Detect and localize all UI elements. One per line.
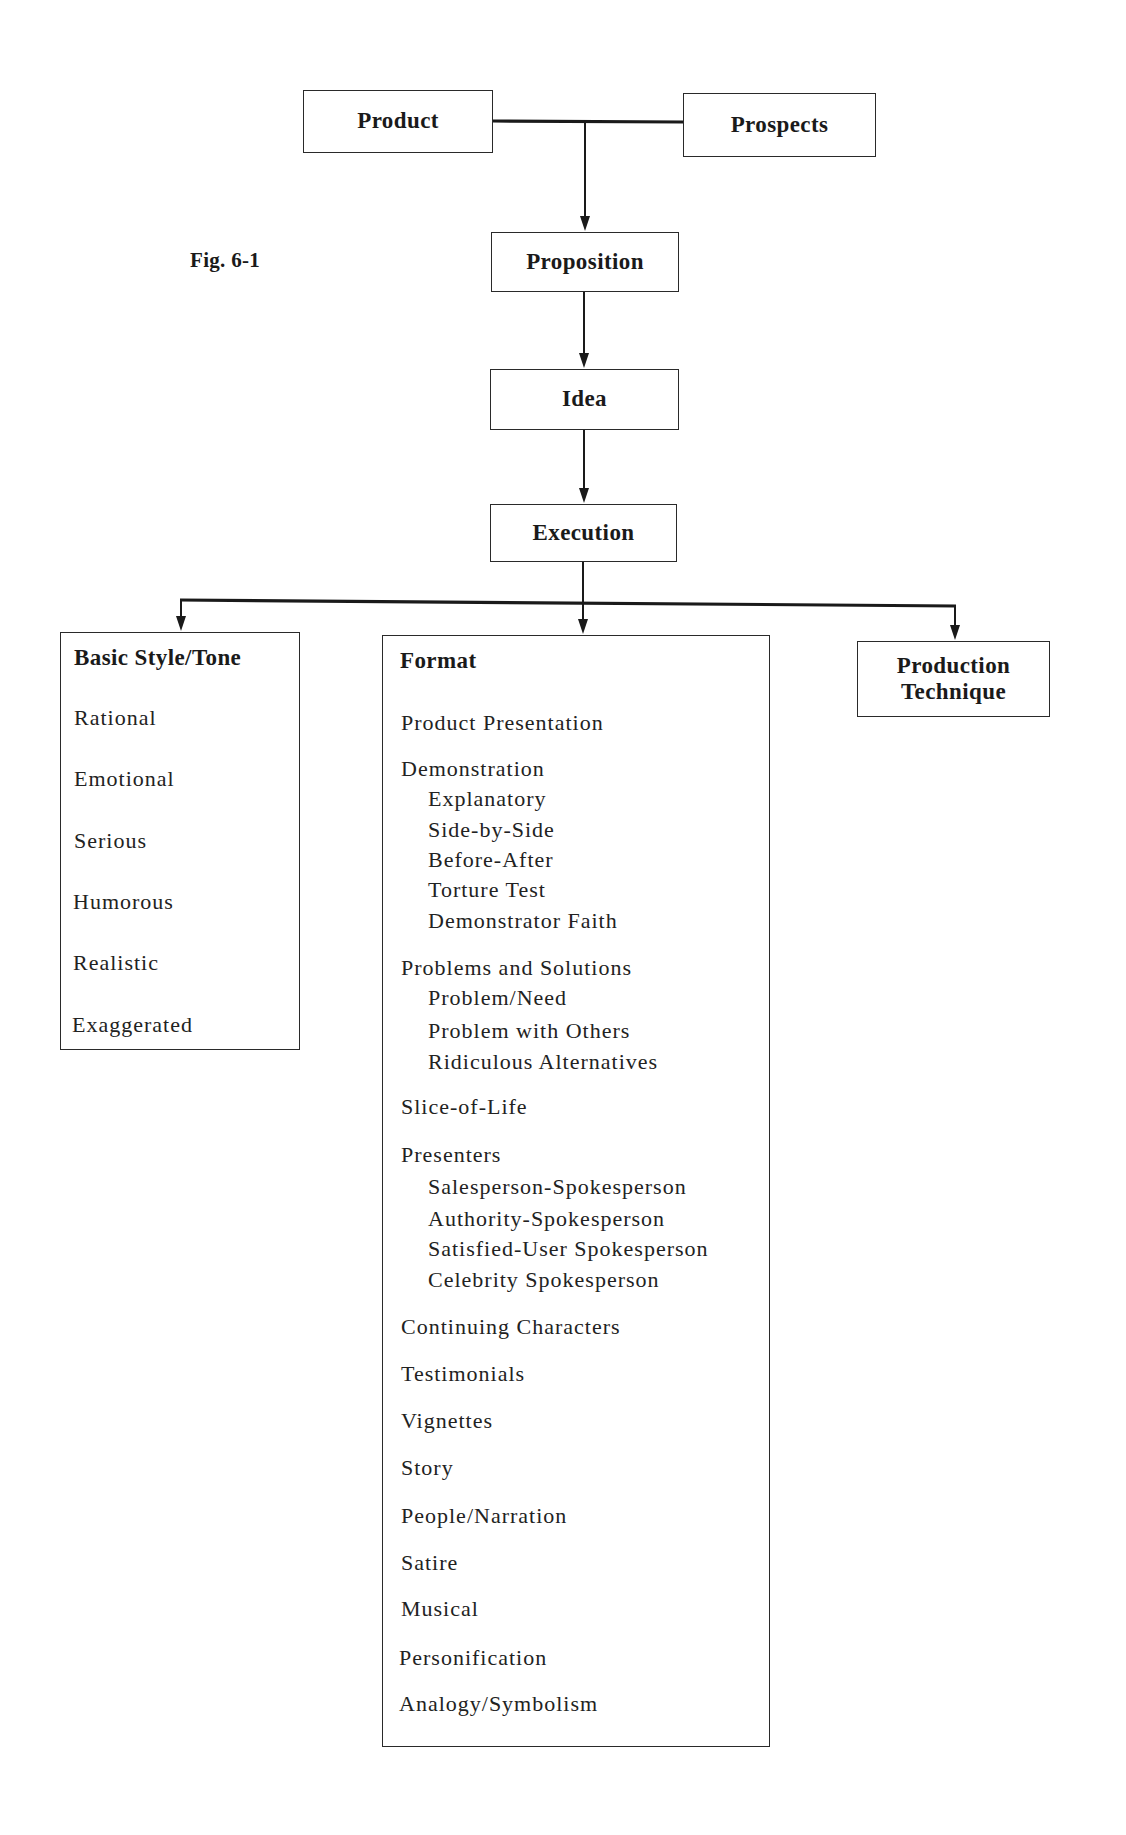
format-item: People/Narration bbox=[401, 1503, 567, 1529]
format-subitem: Satisfied-User Spokesperson bbox=[428, 1236, 709, 1262]
style-item: Rational bbox=[74, 705, 157, 731]
style-item: Exaggerated bbox=[72, 1012, 193, 1038]
production-technique-label-line2: Technique bbox=[901, 679, 1006, 705]
format-subitem: Torture Test bbox=[428, 877, 546, 903]
execution-label: Execution bbox=[533, 520, 635, 546]
format-subitem: Problem with Others bbox=[428, 1018, 630, 1044]
production-technique-node: Production Technique bbox=[857, 641, 1050, 717]
execution-node: Execution bbox=[490, 504, 677, 562]
idea-label: Idea bbox=[562, 386, 607, 412]
production-technique-label-line1: Production bbox=[897, 653, 1010, 679]
format-subitem: Salesperson-Spokesperson bbox=[428, 1174, 687, 1200]
proposition-node: Proposition bbox=[491, 232, 679, 292]
style-item: Emotional bbox=[74, 766, 175, 792]
format-item: Musical bbox=[401, 1596, 479, 1622]
format-subitem: Side-by-Side bbox=[428, 817, 555, 843]
format-item: Demonstration bbox=[401, 756, 545, 782]
style-item: Realistic bbox=[73, 950, 159, 976]
figure-label: Fig. 6-1 bbox=[190, 248, 260, 273]
prospects-label: Prospects bbox=[731, 112, 829, 138]
format-item: Presenters bbox=[401, 1142, 501, 1168]
format-item: Personification bbox=[399, 1645, 547, 1671]
proposition-label: Proposition bbox=[526, 249, 644, 275]
format-subitem: Before-After bbox=[428, 847, 554, 873]
format-item: Slice-of-Life bbox=[401, 1094, 528, 1120]
format-subitem: Problem/Need bbox=[428, 985, 567, 1011]
format-subitem: Ridiculous Alternatives bbox=[428, 1049, 658, 1075]
format-item: Problems and Solutions bbox=[401, 955, 632, 981]
basic-style-tone-title: Basic Style/Tone bbox=[74, 645, 241, 671]
product-node: Product bbox=[303, 90, 493, 153]
format-subitem: Celebrity Spokesperson bbox=[428, 1267, 660, 1293]
format-item: Product Presentation bbox=[401, 710, 604, 736]
format-title: Format bbox=[400, 648, 476, 674]
product-label: Product bbox=[357, 108, 439, 134]
format-subitem: Explanatory bbox=[428, 786, 547, 812]
format-subitem: Demonstrator Faith bbox=[428, 908, 618, 934]
format-item: Vignettes bbox=[401, 1408, 493, 1434]
format-item: Continuing Characters bbox=[401, 1314, 621, 1340]
format-item: Satire bbox=[401, 1550, 458, 1576]
format-item: Testimonials bbox=[401, 1361, 525, 1387]
basic-style-tone-box: Basic Style/Tone Rational Emotional Seri… bbox=[60, 632, 300, 1050]
format-item: Analogy/Symbolism bbox=[399, 1691, 598, 1717]
style-item: Humorous bbox=[73, 889, 174, 915]
format-box: Format Product Presentation Demonstratio… bbox=[382, 635, 770, 1747]
format-subitem: Authority-Spokesperson bbox=[428, 1206, 665, 1232]
format-item: Story bbox=[401, 1455, 454, 1481]
idea-node: Idea bbox=[490, 369, 679, 430]
prospects-node: Prospects bbox=[683, 93, 876, 157]
style-item: Serious bbox=[74, 828, 147, 854]
